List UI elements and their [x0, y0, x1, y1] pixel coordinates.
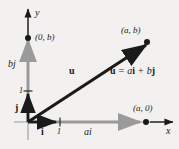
- equation-term1-unit: i: [132, 65, 135, 76]
- vector-diagram: y x 1 1 (a, b) (a, 0) (0, b) u i j ai bj…: [0, 0, 179, 149]
- equation-lhs: u: [110, 65, 116, 76]
- point-label-a-b: (a, b): [121, 26, 141, 35]
- bj-coef: bj: [8, 58, 16, 69]
- point-label-a-0: (a, 0): [133, 104, 153, 113]
- vector-label-ai: ai: [84, 127, 92, 137]
- y-axis-label: y: [35, 8, 39, 18]
- point-a-b: [144, 39, 150, 45]
- equation-eq-sign: =: [119, 65, 125, 76]
- equation: u=ai+bj: [110, 66, 155, 76]
- vector-label-bj: bj: [8, 59, 16, 69]
- equation-term2-unit: j: [152, 65, 155, 76]
- point-0-b: [25, 35, 31, 41]
- y-tick-label-1: 1: [19, 87, 23, 95]
- equation-plus-sign: +: [138, 65, 144, 76]
- x-axis-label: x: [166, 126, 170, 136]
- point-a-0: [143, 119, 149, 125]
- vector-label-i: i: [41, 127, 44, 137]
- ai-coef: ai: [84, 126, 92, 137]
- x-tick-label-1: 1: [57, 128, 61, 136]
- vector-label-u: u: [69, 66, 75, 76]
- point-label-0-b: (0, b): [35, 33, 55, 42]
- vector-u: [28, 45, 146, 122]
- vector-label-j: j: [15, 103, 18, 113]
